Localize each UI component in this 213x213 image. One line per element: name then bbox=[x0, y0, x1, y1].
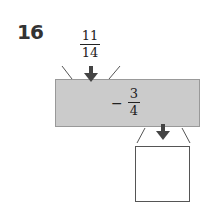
operation-denominator: 4 bbox=[130, 104, 138, 118]
down-arrow-icon bbox=[84, 66, 98, 82]
operation-fraction: 3 4 bbox=[128, 87, 140, 118]
down-arrow-icon bbox=[156, 124, 170, 140]
minus-sign: − bbox=[111, 95, 123, 111]
operation-numerator: 3 bbox=[130, 87, 138, 101]
answer-box[interactable] bbox=[135, 146, 190, 202]
